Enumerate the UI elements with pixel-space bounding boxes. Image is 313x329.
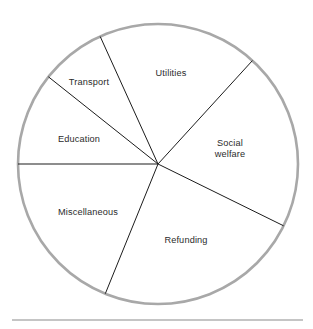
pie-chart-figure: Utilities Social welfare Refunding Misce… bbox=[0, 0, 313, 329]
pie-chart-canvas bbox=[0, 0, 313, 329]
